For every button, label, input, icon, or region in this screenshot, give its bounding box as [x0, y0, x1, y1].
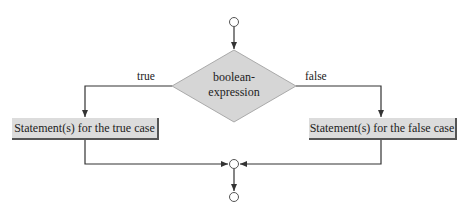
decision-label-line2: expression — [184, 85, 284, 100]
merge-node — [230, 160, 239, 169]
true-branch-line — [85, 86, 172, 117]
false-branch-line — [296, 86, 381, 117]
false-merge-line — [240, 140, 381, 164]
decision-label: boolean- expression — [184, 70, 284, 100]
decision-label-line1: boolean- — [184, 70, 284, 85]
true-statement-box: Statement(s) for the true case — [12, 118, 159, 140]
false-label: false — [305, 70, 327, 82]
false-statement-box: Statement(s) for the false case — [309, 118, 457, 140]
start-node — [230, 18, 239, 27]
flowchart-canvas — [0, 0, 470, 215]
end-node — [230, 193, 239, 202]
true-label: true — [137, 70, 155, 82]
true-merge-line — [85, 140, 228, 164]
